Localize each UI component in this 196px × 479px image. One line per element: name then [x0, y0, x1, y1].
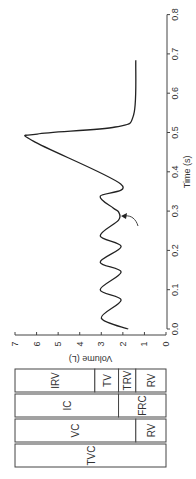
volume-tick-label: 6: [32, 341, 42, 346]
volume-tick-label: 0: [161, 341, 171, 346]
time-tick-label: 0.7: [170, 48, 180, 61]
volume-tick-label: 3: [96, 341, 106, 346]
volume-bar-label-ic: IC: [62, 401, 73, 411]
pause-arrow-annotation: [121, 213, 138, 226]
volume-bar-label-rv: RV: [146, 423, 157, 437]
volume-axis-title: Volume (L): [69, 354, 113, 364]
chart-axes: 0.00.10.20.30.40.50.60.70.8Time (s)01234…: [10, 8, 192, 364]
volume-bar-label-irv: IRV: [50, 372, 61, 389]
volume-bar-label-tvc: TVC: [86, 446, 97, 466]
volume-bar-label-tv: TV: [102, 374, 113, 387]
volume-tick-label: 1: [139, 341, 149, 346]
time-tick-label: 0.0: [170, 323, 180, 336]
time-tick-label: 0.5: [170, 126, 180, 139]
volume-bar-label-rv: RV: [146, 373, 157, 387]
lung-volume-bars: IRVTVTRVRVICFRCVCRVTVC: [15, 369, 166, 467]
volume-tick-label: 7: [10, 341, 20, 346]
arrow-shaft: [125, 216, 138, 226]
volume-curve: [25, 60, 136, 329]
time-tick-label: 0.4: [170, 166, 180, 179]
volume-tick-label: 2: [118, 341, 128, 346]
arrow-head-icon: [121, 213, 127, 219]
volume-curve-path: [25, 60, 136, 329]
volume-bar-label-trv: TRV: [122, 370, 133, 390]
time-tick-label: 0.6: [170, 87, 180, 100]
time-tick-label: 0.3: [170, 205, 180, 218]
lung-volume-chart: 0.00.10.20.30.40.50.60.70.8Time (s)01234…: [0, 0, 196, 479]
volume-tick-label: 5: [53, 341, 63, 346]
volume-bar-label-vc: VC: [70, 424, 81, 438]
time-tick-label: 0.1: [170, 283, 180, 296]
volume-tick-label: 4: [75, 341, 85, 346]
time-tick-label: 0.8: [170, 8, 180, 21]
time-tick-label: 0.2: [170, 244, 180, 257]
time-axis-title: Time (s): [182, 155, 192, 188]
volume-bar-label-frc: FRC: [137, 395, 148, 416]
